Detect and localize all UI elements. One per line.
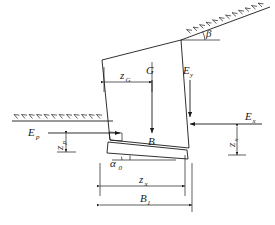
label-b1: B (140, 192, 147, 204)
label-Ep-sub: p (35, 133, 40, 141)
label-b1-sub: 1 (147, 199, 151, 207)
ground-line-left (12, 115, 113, 122)
label-alpha0: α (110, 157, 116, 169)
backfill-slope-hatching (187, 3, 264, 33)
label-beta: β (205, 27, 212, 39)
label-zx-vertical: z (225, 142, 237, 148)
label-Ep: E (27, 126, 35, 138)
label-Ex: E (244, 110, 252, 122)
label-alpha0-sub: 0 (119, 164, 123, 172)
label-zp-vertical-sub: p (60, 141, 68, 146)
gravity-retaining-wall (102, 40, 189, 148)
diagram-canvas: β (0, 0, 275, 225)
label-Ey: E (182, 64, 190, 76)
label-zp-vertical-group: z p (53, 141, 68, 152)
label-Ey-sub: y (189, 71, 194, 79)
label-zp-vertical: z (53, 145, 65, 151)
label-zx-vertical-sub: x (232, 138, 240, 143)
label-zg: z (119, 69, 125, 81)
label-zx: z (138, 173, 144, 185)
label-B: B (148, 135, 155, 147)
dimension-b1 (100, 163, 192, 212)
backfill-slope-line (181, 3, 270, 40)
retaining-wall-diagram: β (0, 0, 275, 225)
label-G: G (146, 64, 154, 76)
ground-line-left-hatching (14, 115, 102, 119)
label-zg-sub: G (126, 76, 131, 84)
